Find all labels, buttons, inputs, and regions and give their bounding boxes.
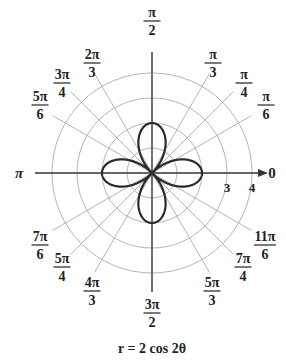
grid-ray	[152, 116, 252, 174]
svg-text:7π: 7π	[236, 251, 251, 266]
svg-text:4: 4	[59, 269, 66, 284]
polar-graph: 34 0π6π4π3π22π33π45π6π7π65π44π33π25π37π4…	[0, 0, 286, 360]
svg-text:π: π	[209, 47, 217, 62]
svg-text:6: 6	[262, 247, 269, 262]
svg-text:π: π	[148, 5, 156, 20]
svg-text:4: 4	[241, 85, 248, 100]
svg-text:3: 3	[89, 293, 96, 308]
svg-text:5π: 5π	[33, 89, 48, 104]
arrow-right-icon	[258, 169, 268, 177]
grid-ray	[152, 73, 210, 173]
radial-tick-labels: 34	[224, 180, 256, 195]
angle-label: 3π4	[54, 67, 71, 100]
svg-text:4π: 4π	[85, 275, 100, 290]
svg-text:5π: 5π	[55, 251, 70, 266]
svg-text:3π: 3π	[145, 297, 160, 312]
svg-text:3: 3	[89, 65, 96, 80]
grid-ray	[52, 173, 152, 231]
angle-label: 3π2	[144, 297, 161, 330]
svg-text:2: 2	[149, 315, 156, 330]
chart-caption: r = 2 cos 2θ	[118, 341, 186, 356]
svg-text:6: 6	[37, 107, 44, 122]
radial-tick-label: 3	[224, 180, 231, 195]
angle-label: π	[15, 165, 24, 181]
angle-label: π3	[205, 47, 222, 80]
svg-text:6: 6	[37, 247, 44, 262]
svg-text:2: 2	[149, 23, 156, 38]
svg-text:6: 6	[263, 107, 270, 122]
svg-text:π: π	[262, 89, 270, 104]
grid-ray	[152, 173, 252, 231]
angle-label: π6	[258, 89, 275, 122]
svg-text:5π: 5π	[205, 275, 220, 290]
svg-text:3: 3	[210, 65, 217, 80]
angle-label: π4	[236, 67, 253, 100]
radial-tick-label: 4	[249, 180, 256, 195]
grid-ray	[52, 116, 152, 174]
angle-label: 4π3	[84, 275, 101, 308]
svg-text:π: π	[240, 67, 248, 82]
svg-text:3π: 3π	[55, 67, 70, 82]
angle-label: 7π6	[32, 229, 49, 262]
angle-label: 5π6	[32, 89, 49, 122]
grid-ray	[152, 173, 210, 273]
angle-label: π2	[144, 5, 161, 38]
svg-text:3: 3	[209, 293, 216, 308]
angle-label: 2π3	[84, 47, 101, 80]
angle-label: 5π4	[54, 251, 71, 284]
angle-label: 0	[268, 165, 276, 181]
svg-text:0: 0	[268, 165, 276, 181]
svg-text:4: 4	[59, 85, 66, 100]
svg-text:4: 4	[240, 269, 247, 284]
svg-text:π: π	[15, 165, 24, 181]
svg-text:7π: 7π	[33, 229, 48, 244]
angle-label: 11π6	[254, 229, 276, 262]
grid-ray	[95, 73, 153, 173]
svg-text:2π: 2π	[85, 47, 100, 62]
svg-text:11π: 11π	[255, 229, 276, 244]
grid-ray	[95, 173, 153, 273]
angle-label: 5π3	[204, 275, 221, 308]
angle-label: 7π4	[235, 251, 252, 284]
